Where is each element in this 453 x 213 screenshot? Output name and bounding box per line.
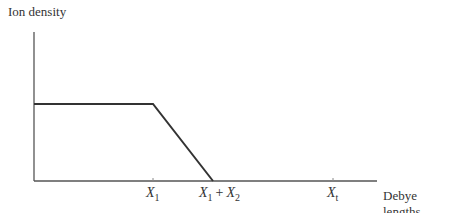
tick-label-xt: Xt	[327, 185, 338, 203]
tick-label-x1: X1	[146, 185, 160, 203]
tick-label-x1-plus-x2: X1+X2	[199, 185, 240, 203]
x-axis-label: Debye lengths	[383, 188, 453, 213]
plot-area	[0, 0, 453, 213]
ion-density-line	[34, 104, 213, 181]
